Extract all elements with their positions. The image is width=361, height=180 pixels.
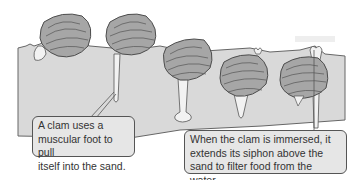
callout-muscular-foot: A clam uses a muscular foot to pull itse…	[32, 116, 135, 157]
clam-2-shell	[106, 14, 156, 55]
clam-5-shell	[280, 57, 328, 98]
clam-1-shell	[40, 14, 91, 57]
clam-4-siphon-tip	[254, 48, 262, 54]
water-current-marks	[295, 36, 335, 42]
callout-siphon: When the clam is immersed, it extends it…	[184, 130, 347, 174]
